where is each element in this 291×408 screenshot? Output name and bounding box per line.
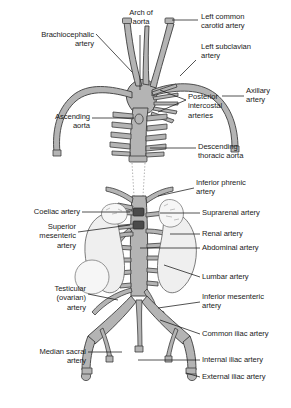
label-internal-iliac-artery: Internal iliac artery (202, 355, 290, 364)
aortic-root-detail (135, 114, 143, 124)
median-sacral-artery-vessel (136, 300, 142, 348)
label-axillary-artery: Axillary artery (246, 86, 290, 105)
label-ascending-aorta: Ascending aorta (2, 112, 90, 131)
left-femoral-stub (82, 368, 92, 374)
left-arm-vessel-end (53, 150, 61, 156)
right-internal-iliac-stub (165, 356, 172, 362)
label-renal-artery: Renal artery (202, 229, 282, 238)
right-common-iliac-vessel (142, 296, 190, 344)
label-median-sacral-artery: Median sacral artery (2, 347, 86, 366)
superior-mesenteric-artery-vessel (133, 221, 144, 229)
left-common-carotid-vessel (124, 22, 142, 86)
leader-inferior-mesenteric (158, 302, 200, 308)
inferior-phrenic-left (106, 187, 133, 203)
right-external-iliac-vessel (183, 336, 196, 372)
label-inferior-mesenteric-artery: Inferior mesenteric artery (202, 292, 290, 311)
median-sacral-stub (135, 346, 143, 352)
label-left-common-carotid-artery: Left common carotid artery (201, 12, 289, 31)
label-arch-of-aorta: Arch of aorta (108, 8, 174, 27)
label-lumbar-artery: Lumbar artery (202, 272, 286, 281)
label-external-iliac-artery: External iliac artery (202, 372, 290, 381)
innominate-branch-vessel (143, 26, 149, 85)
leader-left-subclavian (180, 60, 196, 76)
diaphragm-cap (129, 156, 147, 162)
coeliac-artery-vessel (133, 208, 144, 216)
thoracic-intercostals-left (110, 112, 133, 156)
label-descending-thoracic-aorta: Descending thoracic aorta (198, 142, 290, 161)
label-coeliac-artery: Coeliac artery (2, 207, 80, 216)
label-inferior-phrenic-artery: Inferior phrenic artery (196, 178, 290, 197)
left-subclavian-vertical-vessel (150, 22, 174, 88)
label-testicular-ovarian-artery: Testicular (ovarian) artery (2, 284, 86, 312)
diaphragm-dotline-right (143, 163, 145, 196)
left-internal-iliac-stub (106, 356, 113, 362)
left-common-iliac-vessel (88, 296, 136, 344)
thoracic-intercostals-right (146, 114, 167, 157)
label-posterior-intercostal-arteries: Posterior intercostal arteries (188, 92, 246, 120)
label-left-subclavian-artery: Left subclavian artery (201, 42, 289, 61)
label-superior-mesenteric-artery: Superior mesenteric artery (2, 222, 76, 250)
label-brachiocephalic-artery: Brachiocephalic artery (2, 30, 94, 49)
label-suprarenal-artery: Suprarenal artery (202, 208, 290, 217)
diaphragm-dotline-left (132, 163, 134, 196)
label-common-iliac-artery: Common iliac artery (202, 329, 290, 338)
label-abdominal-artery: Abdominal artery (202, 243, 290, 252)
vessel-artwork (53, 18, 239, 381)
figure-canvas: .vessel { fill:#b4b4b4; stroke:#3c3c3c; … (0, 0, 291, 408)
left-adrenal-gland (101, 203, 127, 224)
